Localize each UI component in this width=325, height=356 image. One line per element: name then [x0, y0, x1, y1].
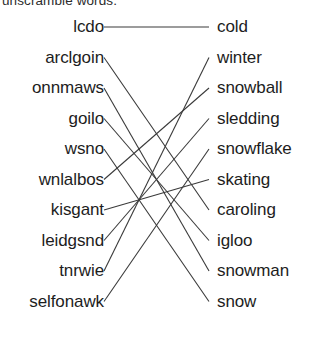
match-line[interactable]	[104, 180, 209, 211]
scrambled-word[interactable]: lcdo	[73, 18, 104, 35]
solution-word[interactable]: snow	[217, 293, 256, 310]
match-line[interactable]	[104, 58, 209, 272]
match-line[interactable]	[104, 149, 209, 302]
solution-word[interactable]: skating	[217, 171, 270, 188]
match-line[interactable]	[104, 58, 209, 211]
worksheet-canvas: unscramble words. lcdoarclgoinonnmawsgoi…	[0, 0, 325, 356]
scrambled-word[interactable]: wsno	[65, 140, 104, 157]
scrambled-word[interactable]: tnrwie	[59, 262, 104, 279]
match-line[interactable]	[104, 88, 209, 180]
solution-word[interactable]: igloo	[217, 232, 252, 249]
solution-word[interactable]: caroling	[217, 201, 276, 218]
scrambled-word[interactable]: leidgsnd	[41, 232, 104, 249]
scrambled-word[interactable]: onnmaws	[32, 79, 104, 96]
match-line[interactable]	[104, 119, 209, 241]
match-line[interactable]	[104, 88, 209, 271]
solution-word[interactable]: winter	[217, 49, 262, 66]
scrambled-word[interactable]: wnlalbos	[39, 171, 104, 188]
instruction-text: unscramble words.	[0, 0, 325, 8]
scrambled-word[interactable]: selfonawk	[29, 293, 104, 310]
solution-word[interactable]: cold	[217, 18, 248, 35]
solution-word[interactable]: snowflake	[217, 140, 292, 157]
solution-word[interactable]: snowball	[217, 79, 282, 96]
match-line[interactable]	[104, 149, 209, 302]
scrambled-word[interactable]: kisgant	[51, 201, 104, 218]
solution-word[interactable]: snowman	[217, 262, 289, 279]
match-line[interactable]	[104, 119, 209, 241]
solution-word[interactable]: sledding	[217, 110, 280, 127]
scrambled-word[interactable]: arclgoin	[45, 49, 104, 66]
scrambled-word[interactable]: goilo	[69, 110, 104, 127]
